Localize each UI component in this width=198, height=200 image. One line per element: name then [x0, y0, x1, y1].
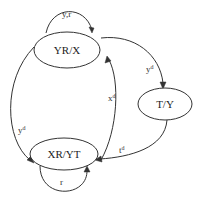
node-label-yrx: YR/X	[54, 44, 80, 56]
node-label-ty: T/Y	[156, 98, 174, 110]
edge-yrx-xryt	[11, 47, 34, 160]
edge-label-xryt-yrx: xd	[108, 93, 116, 103]
arrowhead-icon	[89, 27, 94, 33]
edge-label-yrx-xryt: yd	[18, 125, 26, 135]
edge-label-ty-xryt: td	[119, 145, 125, 155]
edge-label-xryt-self: r	[60, 177, 63, 187]
node-label-xryt: XR/YT	[48, 148, 81, 160]
edge-label-yrx-self: y,r	[62, 9, 71, 19]
edge-xryt-yrx	[101, 60, 116, 160]
state-diagram: y,r YR/X yd T/Y xd yd td XR/YT r	[0, 0, 198, 200]
edge-label-yrx-ty: yd	[146, 64, 154, 74]
